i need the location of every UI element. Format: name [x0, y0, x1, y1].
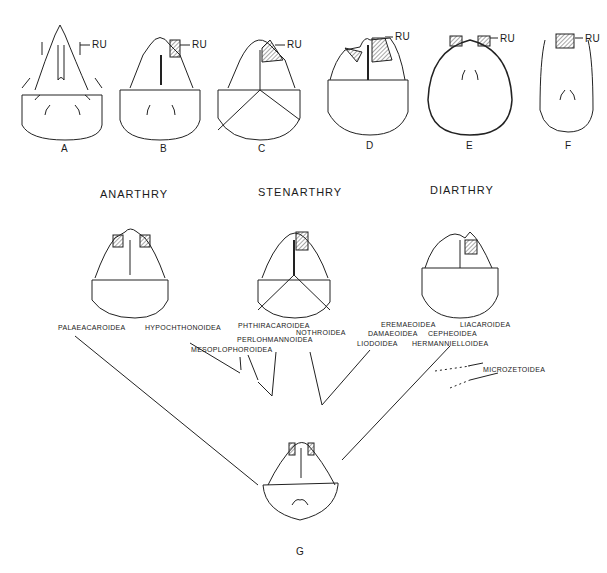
subcapitulum-d [328, 38, 408, 135]
subcapitulum-anarthry [92, 229, 168, 318]
subcapitulum-g [263, 443, 338, 521]
ru-label-b: RU [192, 39, 207, 50]
group-title-stenarthry: STENARTHRY [258, 186, 342, 198]
taxon-perlohmannoidea: PERLOHMANNOIDEA [237, 336, 313, 343]
taxon-nothroidea: NOTHROIDEA [296, 329, 346, 336]
taxon-mesoplophoroidea: MESOPLOPHOROIDEA [191, 346, 272, 353]
group-title-diarthry: DIARTHRY [430, 184, 494, 196]
taxon-hermannielloidea: HERMANNIELLOIDEA [412, 340, 488, 347]
figure-label-d: D [366, 140, 373, 151]
taxon-eremaeoidea: EREMAEOIDEA [381, 321, 436, 328]
subcapitulum-b [120, 38, 200, 141]
figure-label-e: E [466, 140, 473, 151]
taxon-palaeacaroidea: PALAEACAROIDEA [58, 324, 125, 331]
taxon-cepheoidea: CEPHEOIDEA [428, 330, 477, 337]
taxon-liacaroidea: LIACAROIDEA [460, 321, 510, 328]
subcapitulum-c [218, 40, 300, 140]
ru-label-d: RU [395, 31, 410, 42]
figure-label-f: F [565, 140, 571, 151]
figure-label-a: A [61, 143, 68, 154]
taxon-microzetoidea: MICROZETOIDEA [483, 366, 545, 373]
figure-label-c: C [258, 143, 265, 154]
subcapitulum-stenarthry [258, 232, 330, 318]
subcapitulum-a [22, 25, 102, 140]
taxon-phthiracaroidea: PHTHIRACAROIDEA [238, 322, 310, 329]
ru-label-f: RU [585, 33, 600, 44]
subcapitulum-diarthry [422, 232, 498, 318]
diagram-drawing [0, 0, 607, 573]
subcapitulum-f [540, 34, 593, 132]
subcapitulum-e [428, 36, 512, 135]
taxon-damaeoidea: DAMAEOIDEA [368, 330, 418, 337]
ru-label-e: RU [500, 33, 515, 44]
ru-label-c: RU [287, 39, 302, 50]
figure-label-b: B [160, 143, 167, 154]
taxon-hypochthonoidea: HYPOCHTHONOIDEA [145, 324, 221, 331]
ru-label-a: RU [92, 39, 107, 50]
taxon-liodoidea: LIODOIDEA [357, 340, 398, 347]
phylogeny-lines [75, 336, 498, 485]
figure-label-g: G [296, 546, 304, 557]
group-title-anarthry: ANARTHRY [100, 188, 168, 200]
